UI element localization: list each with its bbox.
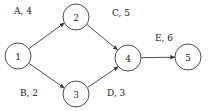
edge-arrow-C — [87, 25, 118, 50]
edge-label-E: E, 6 — [155, 33, 173, 43]
node-label-4: 4 — [125, 54, 131, 64]
edge-labels-layer: A, 4C, 5B, 2D, 3E, 6 — [13, 6, 173, 98]
edges-layer — [29, 23, 175, 88]
node-label-3: 3 — [73, 90, 79, 100]
node-label-2: 2 — [73, 13, 79, 23]
node-3: 3 — [63, 81, 89, 107]
edge-label-D: D, 3 — [107, 88, 126, 98]
node-2: 2 — [63, 4, 89, 30]
graph-canvas: 12345 A, 4C, 5B, 2D, 3E, 6 — [0, 0, 210, 111]
node-5: 5 — [175, 44, 201, 70]
edge-arrow-D — [88, 67, 119, 88]
node-1: 1 — [5, 43, 31, 69]
edge-label-A: A, 4 — [13, 6, 32, 16]
edge-label-C: C, 5 — [112, 8, 130, 18]
edge-arrow-E — [141, 57, 175, 58]
edge-arrow-A — [29, 23, 65, 49]
node-label-1: 1 — [15, 52, 21, 62]
edge-label-B: B, 2 — [20, 88, 38, 98]
network-diagram: 12345 A, 4C, 5B, 2D, 3E, 6 — [0, 0, 210, 111]
node-label-5: 5 — [185, 53, 191, 63]
edge-arrow-B — [29, 63, 65, 88]
node-4: 4 — [115, 45, 141, 71]
